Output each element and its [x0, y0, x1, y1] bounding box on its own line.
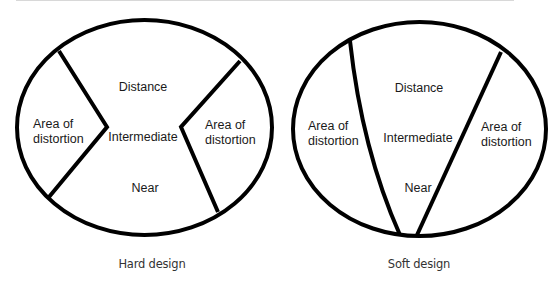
hard-distance-label: Distance	[119, 80, 168, 94]
soft-right-distortion-label-line1: Area of	[481, 120, 522, 134]
soft-intermediate-label: Intermediate	[383, 131, 453, 145]
hard-design-caption: Hard design	[118, 257, 185, 271]
soft-right-distortion-label-line2: distortion	[481, 135, 532, 149]
hard-right-distortion-label-line1: Area of	[205, 118, 246, 132]
soft-left-distortion-label-line1: Area of	[308, 119, 349, 133]
soft-near-label: Near	[404, 181, 431, 195]
soft-design-caption: Soft design	[388, 257, 450, 271]
hard-near-label: Near	[131, 181, 158, 195]
hard-left-distortion-label-line2: distortion	[33, 132, 84, 146]
hard-intermediate-label: Intermediate	[108, 130, 178, 144]
hard-left-distortion-label-line1: Area of	[33, 117, 74, 131]
hard-right-distortion-label-line2: distortion	[205, 133, 256, 147]
hard-design-figure: Distance Intermediate Near Area of disto…	[17, 20, 272, 271]
soft-distance-label: Distance	[395, 81, 444, 95]
lens-design-diagram: Distance Intermediate Near Area of disto…	[0, 0, 558, 284]
soft-left-distortion-label-line2: distortion	[308, 134, 359, 148]
soft-design-figure: Distance Intermediate Near Area of disto…	[293, 22, 546, 271]
